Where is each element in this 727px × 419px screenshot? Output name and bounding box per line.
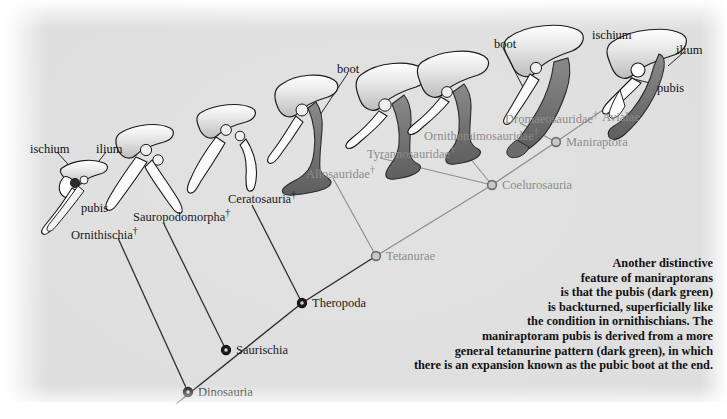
clade-label-coelurosauria[interactable]: Coelurosauria <box>502 179 572 192</box>
bottom-edge-fade <box>0 385 727 419</box>
clade-text: Ceratosauria <box>228 192 291 206</box>
figure-caption: Another distinctive feature of manirapto… <box>383 256 713 373</box>
anatomy-label-pubis-right: pubis <box>657 82 684 95</box>
figure-canvas: Dinosauria Saurischia Theropoda Tetanura… <box>0 0 727 419</box>
caption-line: maniraptoram pubis is derived from a mor… <box>383 329 713 344</box>
clade-text: Allosauridae <box>306 167 370 181</box>
dagger-icon: † <box>593 109 598 120</box>
clade-label-allosauridae[interactable]: Allosauridae† <box>306 165 375 181</box>
anatomy-label-ischium-right: ischium <box>592 29 632 42</box>
pelvis-ornithischia <box>42 160 108 234</box>
clade-label-dromaeosauridae[interactable]: Dromaeosauridae† <box>505 110 598 126</box>
caption-line: general tetanurine pattern (dark green),… <box>383 344 713 359</box>
clade-label-ornithischia[interactable]: Ornithischia† <box>71 226 138 242</box>
clade-label-theropoda[interactable]: Theropoda <box>312 297 366 310</box>
pelvis-ceratosauria <box>187 105 256 194</box>
dagger-icon: † <box>291 189 296 200</box>
dagger-icon: † <box>225 207 230 218</box>
caption-line: there is an expansion known as the pubic… <box>383 358 713 373</box>
caption-line: is that the pubis (dark green) <box>383 285 713 300</box>
caption-line: is backturned, superficially like <box>383 300 713 315</box>
clade-label-ceratosauria[interactable]: Ceratosauria† <box>228 190 296 206</box>
clade-text: Ornithischia <box>71 228 133 242</box>
trunk-lines <box>176 256 376 404</box>
anatomy-label-ilium-right: ilium <box>676 44 702 57</box>
dagger-icon: † <box>370 164 375 175</box>
clade-label-sauropodomorpha[interactable]: Sauropodomorpha† <box>133 208 230 224</box>
clade-text: Coelurosauria <box>502 178 572 192</box>
clade-text: Dromaeosauridae <box>505 112 593 126</box>
pelvis-tyrannosauridae <box>346 63 427 179</box>
clade-label-saurischia[interactable]: Saurischia <box>236 344 288 357</box>
anatomy-label-ilium-left: ilium <box>96 143 122 156</box>
caption-line: the condition in ornithischians. The <box>383 314 713 329</box>
dagger-icon: † <box>450 144 455 155</box>
clade-text: Maniraptora <box>566 135 628 149</box>
dagger-icon: † <box>534 126 539 137</box>
clade-text: Theropoda <box>312 296 366 310</box>
clade-label-avialae[interactable]: Avialae <box>602 111 640 124</box>
caption-line: Another distinctive <box>383 256 713 271</box>
anatomy-label-ischium-left: ischium <box>30 143 70 156</box>
clade-text: Tyrannosauridae <box>367 147 450 161</box>
anatomy-label-boot-dromaeosauridae: boot <box>494 38 516 51</box>
caption-line: feature of maniraptorans <box>383 271 713 286</box>
pelvis-sauropodomorpha <box>106 125 183 214</box>
clade-text: Saurischia <box>236 343 288 357</box>
clade-label-tyrannosauridae[interactable]: Tyrannosauridae† <box>367 145 455 161</box>
clade-text: Avialae <box>602 110 640 124</box>
clade-text: Ornithomimosauridae <box>424 129 534 143</box>
clade-text: Sauropodomorpha <box>133 210 225 224</box>
anatomy-label-pubis-left: pubis <box>81 202 108 215</box>
clade-label-maniraptora[interactable]: Maniraptora <box>566 136 628 149</box>
clade-label-ornithomimosauridae[interactable]: Ornithomimosauridae† <box>424 127 539 143</box>
branch-lines-dark <box>118 205 302 392</box>
anatomy-label-boot-allosauridae: boot <box>337 63 359 76</box>
dagger-icon: † <box>133 225 138 236</box>
